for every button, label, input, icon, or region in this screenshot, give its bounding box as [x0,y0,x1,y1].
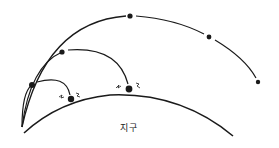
long-trajectory-path-2 [136,16,204,34]
medium-trajectory-path-2 [68,50,128,84]
long-trajectory-path-3 [215,40,256,78]
medium-trajectory-impact-dot [126,86,133,93]
long-trajectory-dot-2 [207,35,212,40]
long-trajectory-dot-3 [256,80,260,84]
orbit-diagram [0,0,279,148]
earth-label: 지구 [120,121,137,134]
short-trajectory-path-2 [37,80,70,95]
medium-trajectory-mid-dot [59,49,64,54]
short-trajectory-impact-dot [68,96,74,102]
long-trajectory-path [22,16,126,127]
long-trajectory-dot-1 [127,13,132,18]
